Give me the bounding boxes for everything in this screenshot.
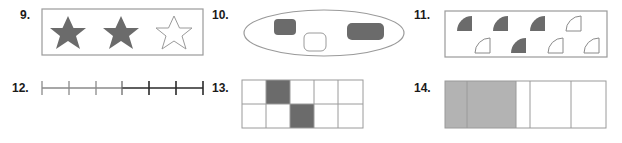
problem-11-quarter-circles-figure (444, 10, 609, 60)
problem-13-grid (241, 79, 366, 130)
problem-11-number: 11. (414, 9, 430, 21)
problem-13-number: 13. (212, 82, 229, 94)
problem-14-number: 14. (414, 82, 431, 94)
problem-10-ellipse-figure (242, 9, 408, 59)
problem-10-number: 10. (212, 9, 229, 21)
problem-9-number: 9. (20, 9, 30, 21)
problem-14-bar (444, 80, 609, 130)
rounded-square-shaded (274, 19, 296, 35)
rounded-rectangle-shaded (347, 23, 384, 40)
problem-9-stars-figure (41, 8, 205, 57)
rounded-square-empty (304, 33, 326, 51)
problem-12-number-line (40, 80, 206, 98)
problem-12-number: 12. (12, 82, 29, 94)
